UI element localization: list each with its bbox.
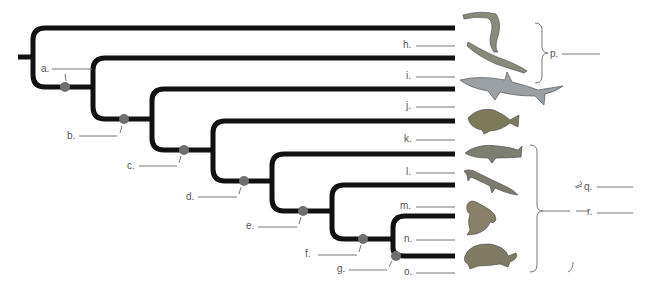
node-label-a: a.: [41, 63, 49, 74]
node-label-e: e.: [246, 220, 254, 231]
taxon-label-j: j.: [405, 100, 411, 111]
turtle-icon: [464, 244, 516, 269]
frog-icon: [467, 201, 496, 235]
taxon-label-k: k.: [404, 133, 412, 144]
group-label-r: r.: [587, 206, 593, 217]
node-dot-b: [119, 114, 129, 124]
node-dot-g: [391, 251, 401, 261]
node-dot-d: [239, 176, 249, 186]
branches: [18, 28, 455, 256]
animal-illustrations: [460, 12, 563, 269]
taxon-labels: h. i. j. k. l. m. n. o.: [400, 39, 412, 277]
node-label-c: c.: [127, 160, 135, 171]
cladogram: a. b. c. d. e. f. g. h. i. j. k. l. m. n…: [0, 0, 648, 300]
perch-icon: [468, 109, 519, 134]
node-labels: a. b. c. d. e. f. g.: [41, 63, 345, 274]
node-label-f: f.: [305, 248, 311, 259]
node-dot-a: [60, 82, 70, 92]
taxon-label-l: l.: [406, 166, 411, 177]
group-label-q: q.: [584, 181, 592, 192]
lungfish-icon: [465, 145, 522, 163]
node-label-b: b.: [67, 130, 75, 141]
taxon-label-n: n.: [404, 233, 412, 244]
salamander-icon: [464, 170, 518, 195]
group-label-p: p.: [550, 48, 558, 59]
node-label-g: g.: [337, 263, 345, 274]
taxon-label-i: i.: [406, 70, 411, 81]
node-label-d: d.: [186, 191, 194, 202]
node-dot-e: [298, 206, 308, 216]
lamprey-icon: [467, 42, 527, 73]
taxon-label-m: m.: [400, 200, 411, 211]
shark-icon: [460, 72, 563, 105]
node-dot-c: [179, 145, 189, 155]
group-labels: p. q. r.: [550, 48, 593, 217]
taxon-label-o: o.: [404, 266, 412, 277]
node-dot-f: [358, 234, 368, 244]
taxon-label-h: h.: [403, 39, 411, 50]
node-dots: [60, 82, 401, 261]
